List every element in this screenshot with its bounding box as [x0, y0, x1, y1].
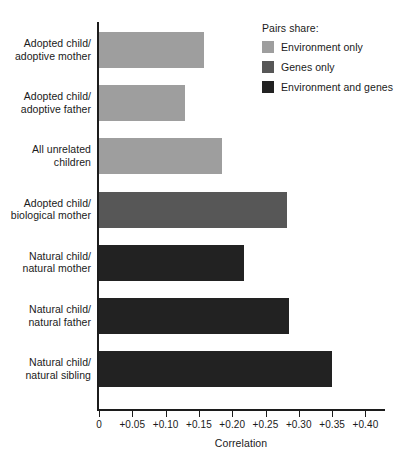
bar	[99, 351, 332, 387]
x-axis-tick-label: +0.15	[186, 419, 212, 430]
bar-category-label-line1: Natural child/	[3, 356, 91, 369]
x-axis-tick-label: +0.40	[352, 419, 378, 430]
legend-item: Environment only	[262, 41, 402, 53]
bar-category-label-line2: adoptive father	[3, 103, 91, 116]
bar-category-label-line1: Natural child/	[3, 250, 91, 263]
bar	[99, 298, 289, 334]
x-axis-tick-label: +0.05	[119, 419, 145, 430]
bar-category-label-line1: All unrelated	[3, 143, 91, 156]
x-axis-tick-label: +0.10	[153, 419, 179, 430]
bar-category-label-line1: Adopted child/	[3, 197, 91, 210]
legend-item: Genes only	[262, 61, 402, 73]
x-axis-tick	[199, 409, 200, 417]
x-axis-tick	[365, 409, 366, 417]
bar-category-label-line2: biological mother	[3, 209, 91, 222]
x-axis-tick-label: +0.20	[219, 419, 245, 430]
bar-category-label-line2: natural mother	[3, 262, 91, 275]
bar	[99, 32, 204, 68]
x-axis-tick-label: +0.35	[319, 419, 345, 430]
legend-swatch-icon	[262, 41, 274, 53]
bar	[99, 192, 287, 228]
x-axis-tick-label: +0.25	[253, 419, 279, 430]
bar-category-label-line2: natural father	[3, 316, 91, 329]
legend-items: Environment onlyGenes onlyEnvironment an…	[262, 41, 402, 93]
legend-item-label: Environment and genes	[281, 81, 393, 93]
legend-item-label: Genes only	[281, 61, 335, 73]
bar-category-label-line2: adoptive mother	[3, 50, 91, 63]
legend-item-label: Environment only	[281, 41, 363, 53]
bar	[99, 138, 222, 174]
bar-category-label: Adopted child/biological mother	[3, 197, 91, 222]
bar	[99, 85, 185, 121]
x-axis-tick	[299, 409, 300, 417]
bar-category-label-line2: natural sibling	[3, 369, 91, 382]
legend-item: Environment and genes	[262, 81, 402, 93]
x-axis-tick	[266, 409, 267, 417]
bar-category-label: Adopted child/adoptive mother	[3, 37, 91, 62]
legend: Pairs share: Environment onlyGenes onlyE…	[262, 22, 402, 101]
x-axis-tick	[232, 409, 233, 417]
bar-category-label: All unrelatedchildren	[3, 143, 91, 168]
bar-category-label-line1: Natural child/	[3, 303, 91, 316]
bar-category-label: Adopted child/adoptive father	[3, 90, 91, 115]
bar-category-label: Natural child/natural mother	[3, 250, 91, 275]
x-axis-tick	[332, 409, 333, 417]
bar-category-label-line1: Adopted child/	[3, 37, 91, 50]
x-axis-title: Correlation	[97, 437, 385, 449]
legend-swatch-icon	[262, 61, 274, 73]
x-axis-tick	[166, 409, 167, 417]
bar-category-label-line2: children	[3, 156, 91, 169]
bar-category-label: Natural child/natural father	[3, 303, 91, 328]
legend-title: Pairs share:	[262, 22, 402, 34]
bar-category-label: Natural child/natural sibling	[3, 356, 91, 381]
x-axis-tick	[132, 409, 133, 417]
x-axis-tick	[99, 409, 100, 417]
x-axis-tick-label: +0.30	[286, 419, 312, 430]
bar-category-label-line1: Adopted child/	[3, 90, 91, 103]
legend-swatch-icon	[262, 81, 274, 93]
correlation-bar-chart: Adopted child/adoptive motherAdopted chi…	[0, 0, 403, 461]
x-axis-line	[97, 409, 385, 411]
x-axis-tick-label: 0	[96, 419, 102, 430]
bar	[99, 245, 244, 281]
